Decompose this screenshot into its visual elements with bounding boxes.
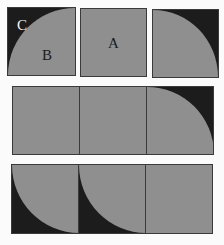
cell-arc xyxy=(147,87,214,154)
label-b: B xyxy=(42,48,52,63)
quarter-circle-shape xyxy=(147,87,214,154)
cell-arc xyxy=(12,165,79,233)
cell-solid-gray xyxy=(146,165,213,233)
tile-c-b: C B xyxy=(7,7,76,76)
cell-solid-gray xyxy=(13,87,80,154)
strip-row-3 xyxy=(11,164,213,234)
cell-arc xyxy=(79,165,146,233)
quarter-circle-shape xyxy=(153,10,218,77)
label-c: C xyxy=(17,18,27,33)
tile-a: A xyxy=(80,8,147,77)
quarter-circle-shape xyxy=(79,165,146,233)
tile-right-arc xyxy=(152,9,219,78)
cell-solid-gray xyxy=(80,87,147,154)
strip-row-2 xyxy=(12,86,214,155)
quarter-circle-shape xyxy=(12,165,79,233)
label-a: A xyxy=(108,36,119,51)
